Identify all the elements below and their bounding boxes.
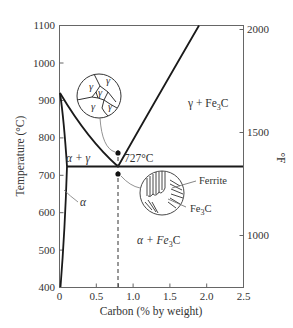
fe3c-label: Fe3C [190,203,212,217]
ferrite-label: Ferrite [199,175,227,186]
y-axis-right-title: °F [275,153,287,164]
region-alpha-gamma: α + γ [66,152,91,165]
svg-text:γ: γ [89,81,94,92]
y2-tick-1500: 1500 [247,126,270,138]
region-alpha-fe3c: α + Fe3C [137,234,181,249]
y2-tick-2000: 2000 [247,23,270,35]
y-tick-1100: 1100 [33,19,55,31]
y-tick-400: 400 [39,281,56,293]
y-tick-900: 900 [39,94,56,106]
eutectoid-temperature-label: 727°C [124,152,154,164]
pearlite-microstructure-icon [121,171,196,215]
svg-text:γ: γ [91,101,96,112]
y-tick-800: 800 [39,131,56,143]
x-tick-2.5: 2.5 [237,290,251,302]
x-tick-2.0: 2.0 [200,290,214,302]
austenite-point [115,150,120,155]
right-axis-ticks [240,30,244,236]
left-axis-tick-labels: 1100 1000 900 800 700 600 500 400 [33,19,56,293]
x-tick-0.5: 0.5 [89,290,103,302]
region-gamma-fe3c: γ + Fe3C [187,97,229,112]
acm-boundary [118,26,199,167]
pearlite-point [115,171,120,176]
x-tick-0: 0 [57,290,63,302]
x-tick-1.5: 1.5 [163,290,177,302]
austenite-microstructure-icon [77,74,121,152]
x-tick-1.0: 1.0 [126,290,140,302]
iron-carbon-phase-diagram: 1100 1000 900 800 700 600 500 400 2000 1… [0,0,293,328]
bottom-axis-ticks [96,284,206,288]
x-axis-title: Carbon (% by weight) [100,305,203,318]
y-tick-500: 500 [39,244,56,256]
svg-text:γ: γ [108,101,113,112]
y-tick-1000: 1000 [33,57,56,69]
y-axis-left-title: Temperature (°C) [14,115,27,196]
y-tick-700: 700 [39,169,56,181]
bottom-axis-tick-labels: 0 0.5 1.0 1.5 2.0 2.5 [57,290,251,302]
right-axis-tick-labels: 2000 1500 1000 [247,23,270,241]
alpha-solvus [60,93,67,287]
svg-text:γ: γ [98,87,103,98]
y-tick-600: 600 [39,206,56,218]
region-alpha: α [80,196,87,208]
y2-tick-1000: 1000 [247,229,270,241]
left-axis-ticks [60,26,64,251]
